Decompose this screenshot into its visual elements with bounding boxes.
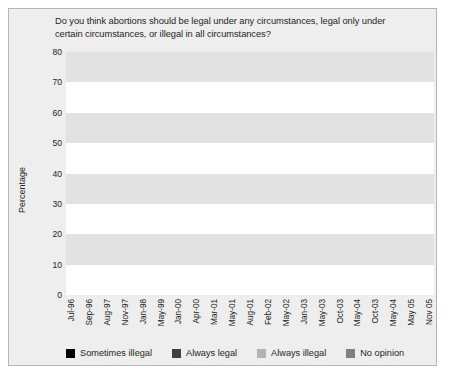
x-tick-text: May 05 (407, 299, 416, 326)
x-tick-text: Sep-96 (85, 299, 94, 325)
legend-swatch-icon (172, 349, 181, 358)
grid-band (66, 204, 434, 234)
x-tick-text: May-02 (282, 299, 291, 326)
y-tick-label: 30 (36, 199, 62, 209)
x-tick-text: May-99 (157, 299, 166, 326)
x-tick-text: Nov 05 (425, 299, 434, 325)
x-tick-text: Aug-97 (103, 299, 112, 325)
x-tick-text: May-03 (318, 299, 327, 326)
y-tick-label: 40 (36, 169, 62, 179)
y-tick-label: 70 (36, 77, 62, 87)
y-axis-label: Percentage (17, 167, 27, 213)
y-tick-label: 80 (36, 47, 62, 57)
x-tick-text: Mar-01 (210, 299, 219, 325)
legend-item[interactable]: No opinion (346, 348, 404, 358)
y-tick-label: 0 (36, 290, 62, 300)
legend-swatch-icon (66, 349, 75, 358)
x-tick-text: Feb-02 (264, 299, 273, 325)
legend-label: No opinion (360, 348, 404, 358)
x-tick-text: Oct-03 (336, 299, 345, 324)
plot-area (66, 52, 434, 295)
x-tick-text: Oct-03 (371, 299, 380, 324)
x-tick-text: Apr-00 (192, 299, 201, 324)
legend-swatch-icon (257, 349, 266, 358)
legend-label: Always legal (186, 348, 237, 358)
y-tick-label: 20 (36, 229, 62, 239)
y-axis: Percentage 01020304050607080 (32, 52, 62, 295)
chart-title: Do you think abortions should be legal u… (55, 15, 405, 41)
x-tick-text: Jan-03 (300, 299, 309, 324)
legend-label: Sometimes illegal (80, 348, 152, 358)
grid-band (66, 113, 434, 143)
grid-band (66, 82, 434, 112)
legend-item[interactable]: Always illegal (257, 348, 326, 358)
legend-item[interactable]: Sometimes illegal (66, 348, 152, 358)
x-tick-text: May-04 (389, 299, 398, 326)
x-axis: Jul-96Sep-96Aug-97Nov-97Jan-98May-99Jan-… (66, 297, 434, 341)
y-tick-label: 60 (36, 108, 62, 118)
x-tick-text: Aug-01 (246, 299, 255, 325)
y-tick-label: 10 (36, 260, 62, 270)
grid-band (66, 265, 434, 295)
x-tick-text: Jan-98 (139, 299, 148, 324)
y-tick-label: 50 (36, 138, 62, 148)
legend-label: Always illegal (271, 348, 326, 358)
x-tick-text: Jul-96 (67, 299, 76, 321)
grid-band (66, 174, 434, 204)
chart-figure: Do you think abortions should be legal u… (8, 8, 437, 366)
x-tick-text: May-01 (228, 299, 237, 326)
chart-legend: Sometimes illegalAlways legalAlways ille… (66, 345, 434, 361)
legend-item[interactable]: Always legal (172, 348, 237, 358)
x-tick-text: Jan-00 (174, 299, 183, 324)
legend-swatch-icon (346, 349, 355, 358)
grid-band (66, 143, 434, 173)
x-tick-text: Nov-97 (121, 299, 130, 325)
x-tick-text: May-04 (353, 299, 362, 326)
grid-band (66, 52, 434, 82)
grid-band (66, 234, 434, 264)
